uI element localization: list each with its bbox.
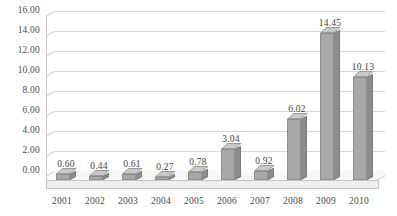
bar-front-face <box>221 149 235 180</box>
data-label-2010: 10.13 <box>343 62 383 72</box>
y-axis-tick-label: 12.00 <box>0 45 40 55</box>
bar-front-face <box>56 174 70 180</box>
data-label-2006: 3.04 <box>211 134 251 144</box>
bar-front-face <box>320 33 334 180</box>
y-axis-tick-label: 16.00 <box>0 5 40 15</box>
data-label-2007: 0.92 <box>244 156 284 166</box>
y-axis-tick-label: 8.00 <box>0 85 40 95</box>
chart-floor <box>46 180 379 189</box>
x-axis-tick-2010: 2010 <box>339 196 379 206</box>
bar-side-face <box>367 74 373 180</box>
data-label-2005: 0.78 <box>178 157 218 167</box>
axis-depth-edge <box>46 11 54 17</box>
y-axis-tick-label: 14.00 <box>0 25 40 35</box>
data-label-2008: 6.02 <box>277 104 317 114</box>
bar-front-face <box>122 174 136 180</box>
bar-front-face <box>254 171 268 180</box>
bar-front-face <box>353 77 367 180</box>
y-axis-tick-label: 6.00 <box>0 105 40 115</box>
y-axis-tick-label: 10.00 <box>0 65 40 75</box>
y-axis-tick-label: 2.00 <box>0 145 40 155</box>
bar-chart: 16.00 14.00 12.00 10.00 8.00 6.00 4.00 2… <box>0 0 397 216</box>
bar-side-face <box>334 30 340 180</box>
y-axis-tick-label: 0.00 <box>0 165 40 175</box>
gridline <box>54 11 385 12</box>
bar-side-face <box>301 116 307 180</box>
bar-front-face <box>188 172 202 180</box>
bar-front-face <box>155 177 169 180</box>
bar-front-face <box>287 119 301 180</box>
bar-side-face <box>235 146 241 180</box>
data-label-2009: 14.45 <box>310 18 350 28</box>
bar-front-face <box>89 176 103 180</box>
y-axis-tick-label: 4.00 <box>0 125 40 135</box>
